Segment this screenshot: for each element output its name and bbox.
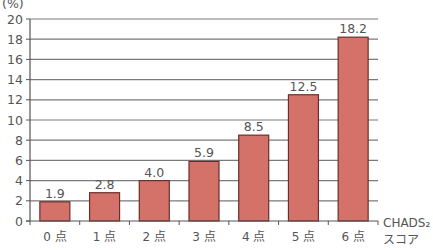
bar-chart: 02468101214161820 1.92.84.05.98.512.518.… [0, 0, 433, 250]
bar-value-label: 2.8 [95, 177, 115, 192]
x-tick-label: 0 点 [43, 230, 66, 244]
bar-value-label: 12.5 [290, 79, 318, 94]
bar-value-label: 18.2 [339, 21, 367, 36]
y-axis-ticks: 02468101214161820 [7, 12, 30, 229]
bar-value-label: 4.0 [144, 165, 164, 180]
bar [338, 37, 368, 221]
bar-value-label: 1.9 [45, 186, 65, 201]
bar [139, 181, 169, 221]
x-tick-label: 6 点 [341, 230, 364, 244]
y-tick-label: 4 [15, 173, 23, 188]
bar [90, 193, 120, 221]
x-tick-label: 3 点 [192, 230, 215, 244]
y-tick-label: 20 [7, 12, 23, 27]
x-tick-label: 5 点 [292, 230, 315, 244]
y-tick-label: 14 [7, 72, 23, 87]
y-tick-label: 18 [7, 32, 23, 47]
bar [189, 161, 219, 221]
bar [239, 135, 269, 221]
y-tick-label: 8 [15, 133, 23, 148]
x-tick-label: 1 点 [93, 230, 116, 244]
bar-value-label: 8.5 [244, 119, 264, 134]
bar [40, 202, 70, 221]
x-axis-label: CHADS₂ スコア [383, 216, 433, 247]
y-tick-label: 10 [7, 113, 23, 128]
y-tick-label: 0 [15, 214, 23, 229]
y-tick-label: 2 [15, 193, 23, 208]
bar-value-label: 5.9 [194, 145, 214, 160]
x-tick-label: 4 点 [242, 230, 265, 244]
x-tick-label: 2 点 [143, 230, 166, 244]
y-tick-label: 6 [15, 153, 23, 168]
y-tick-label: 12 [7, 92, 23, 107]
bars: 1.92.84.05.98.512.518.2 [40, 21, 368, 221]
y-axis-label: (%) [2, 0, 24, 11]
bar [288, 95, 318, 221]
y-tick-label: 16 [7, 52, 23, 67]
